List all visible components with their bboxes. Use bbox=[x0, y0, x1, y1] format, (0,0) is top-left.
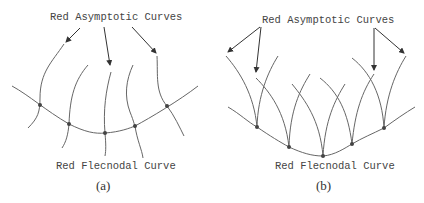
flecnodal-point bbox=[165, 104, 169, 108]
flecnodal-point bbox=[287, 145, 291, 149]
asymptotic-curve bbox=[62, 65, 88, 148]
panel-b-caption: (b) bbox=[316, 178, 331, 193]
flecnodal-point bbox=[350, 142, 354, 146]
asymptotic-curve bbox=[292, 84, 323, 156]
asymptotic-curve bbox=[126, 65, 143, 158]
flecnodal-point bbox=[133, 124, 137, 128]
figure: Red Asymptotic Curves Red Flecnodal Curv… bbox=[0, 0, 424, 203]
arrow-icon bbox=[132, 27, 156, 53]
asymptotic-curve bbox=[28, 44, 64, 128]
flecnodal-point bbox=[382, 126, 386, 130]
arrow-icon bbox=[256, 27, 261, 72]
panel-b-title: Red Asymptotic Curves bbox=[262, 14, 394, 26]
panel-b-curve-label: Red Flecnodal Curve bbox=[275, 160, 395, 172]
asymptotic-curve bbox=[352, 74, 374, 144]
panel-a-dots bbox=[38, 103, 169, 135]
asymptotic-curve bbox=[320, 78, 352, 144]
asymptotic-curve bbox=[352, 58, 384, 128]
flecnodal-point bbox=[255, 125, 259, 129]
arrow-icon bbox=[375, 28, 404, 53]
asymptotic-curve bbox=[384, 56, 406, 128]
panel-b-asymptotic-curves bbox=[226, 56, 406, 156]
asymptotic-curve bbox=[323, 84, 345, 156]
asymptotic-curve bbox=[157, 56, 184, 136]
flecnodal-point bbox=[38, 103, 42, 107]
panel-a: Red Asymptotic Curves Red Flecnodal Curv… bbox=[12, 11, 198, 193]
panel-a-arrows bbox=[66, 27, 156, 65]
flecnodal-point bbox=[67, 122, 71, 126]
panel-b: Red Asymptotic Curves R bbox=[226, 14, 415, 193]
panel-a-caption: (a) bbox=[96, 178, 110, 193]
asymptotic-curve bbox=[104, 72, 111, 156]
arrow-icon bbox=[104, 27, 110, 65]
arrow-icon bbox=[66, 28, 80, 42]
flecnodal-curve bbox=[228, 107, 415, 156]
panel-a-title: Red Asymptotic Curves bbox=[50, 11, 182, 23]
panel-b-arrows bbox=[228, 27, 404, 72]
arrow-icon bbox=[228, 27, 260, 52]
flecnodal-point bbox=[103, 131, 107, 135]
panel-a-asymptotic-curves bbox=[28, 44, 184, 158]
panel-a-curve-label: Red Flecnodal Curve bbox=[56, 160, 176, 172]
flecnodal-point bbox=[321, 154, 325, 158]
